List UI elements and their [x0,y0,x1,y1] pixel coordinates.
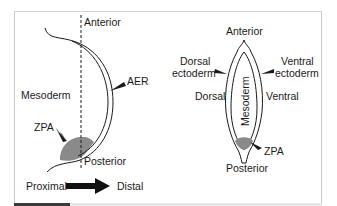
right-zpa-label: ZPA [264,146,284,157]
aer-pointer-icon [110,82,126,91]
dorsal-ectoderm-label-line1: Dorsal [180,56,210,67]
bottom-scrollbar[interactable] [14,203,322,206]
ventral-ectoderm-pointer-icon [261,69,274,74]
left-zpa-label: ZPA [34,122,54,133]
scrollbar-thumb[interactable] [14,203,70,206]
proximal-distal-arrow-icon [66,178,110,194]
right-anterior-label: Anterior [226,26,263,37]
left-posterior-label: Posterior [84,156,126,167]
dorsal-label: Dorsal [195,91,225,102]
ventral-label: Ventral [266,91,299,102]
right-posterior-label: Posterior [226,163,268,174]
ventral-ectoderm-label-line2: ectoderm [275,68,319,79]
proximal-label: Proximal [26,181,67,192]
ventral-ectoderm-label-line1: Ventral [281,56,314,67]
left-mesoderm-label: Mesoderm [21,90,71,101]
limb-bud-diagram [0,0,337,206]
right-mesoderm-label: Mesoderm [240,76,251,126]
dorsal-ectoderm-label-line2: ectoderm [172,68,216,79]
left-anterior-label: Anterior [84,17,121,28]
right-zpa-region [235,137,253,150]
distal-label: Distal [117,181,143,192]
zpa-pointer-icon [56,128,67,142]
left-limb-bud [45,15,126,194]
aer-label: AER [127,76,149,87]
